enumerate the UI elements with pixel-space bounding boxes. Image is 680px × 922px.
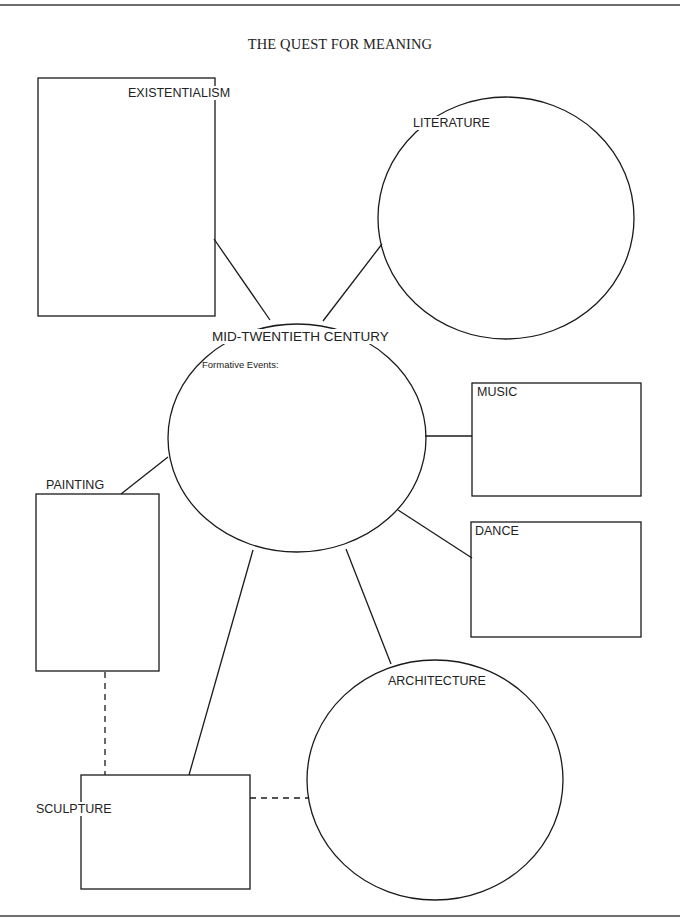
connector-literature xyxy=(323,244,382,321)
existentialism-label: EXISTENTIALISM xyxy=(127,86,231,100)
dance-label: DANCE xyxy=(474,524,520,538)
connector-painting xyxy=(121,457,168,494)
center-sublabel: Formative Events: xyxy=(201,359,280,370)
literature-label: LITERATURE xyxy=(412,116,491,130)
literature-circle xyxy=(378,97,634,339)
connector-existentialism xyxy=(214,239,270,320)
concept-map-diagram xyxy=(0,0,680,922)
music-box xyxy=(472,383,641,496)
center-label: MID-TWENTIETH CENTURY xyxy=(211,329,390,344)
architecture-label: ARCHITECTURE xyxy=(387,674,487,688)
architecture-circle xyxy=(307,660,563,900)
connector-sculpture xyxy=(189,550,253,775)
sculpture-label: SCULPTURE xyxy=(35,802,113,816)
connector-architecture xyxy=(346,549,391,664)
painting-box xyxy=(36,494,159,671)
painting-label: PAINTING xyxy=(45,478,105,492)
sculpture-box xyxy=(81,775,250,889)
music-label: MUSIC xyxy=(476,385,518,399)
dance-box xyxy=(471,522,641,637)
connector-dance xyxy=(398,510,472,558)
existentialism-box xyxy=(38,78,215,316)
